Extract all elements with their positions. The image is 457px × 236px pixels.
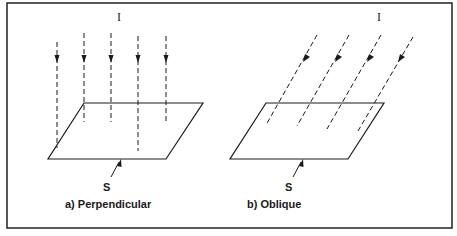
ray <box>327 35 381 129</box>
arrow-down-icon <box>136 55 141 63</box>
arrow-down-icon <box>55 55 60 63</box>
surface-plane-b <box>230 103 384 159</box>
arrow-down-icon <box>164 55 169 63</box>
ray <box>358 37 413 131</box>
arrow-diagonal-icon <box>335 54 342 62</box>
arrow-diagonal-icon <box>367 54 374 62</box>
ray <box>297 35 349 126</box>
caption-a: a) Perpendicular <box>65 198 152 210</box>
ray-arrowheads-b <box>303 54 405 62</box>
surface-pointer-a <box>111 162 119 177</box>
incident-label-a: I <box>117 10 121 24</box>
figure-border <box>7 3 452 228</box>
surface-label-b: S <box>285 181 292 193</box>
ray <box>266 35 317 125</box>
arrow-diagonal-icon <box>398 54 405 62</box>
caption-b: b) Oblique <box>247 198 301 210</box>
arrow-down-icon <box>82 55 87 63</box>
arrow-down-icon <box>109 55 114 63</box>
surface-plane-a <box>48 103 203 159</box>
incident-rays-b <box>266 35 413 131</box>
surface-pointer-b <box>293 162 301 177</box>
incident-label-b: I <box>377 10 381 24</box>
incident-rays-a <box>57 33 166 151</box>
arrow-diagonal-icon <box>303 54 310 62</box>
panel-oblique: I S b) Oblique <box>230 10 413 210</box>
incidence-diagram: I S a) Perpendicular I <box>0 0 457 236</box>
arrow-up-icon <box>117 159 122 167</box>
panel-perpendicular: I S a) Perpendicular <box>48 10 203 210</box>
arrow-up-icon <box>299 159 304 167</box>
surface-label-a: S <box>103 181 110 193</box>
